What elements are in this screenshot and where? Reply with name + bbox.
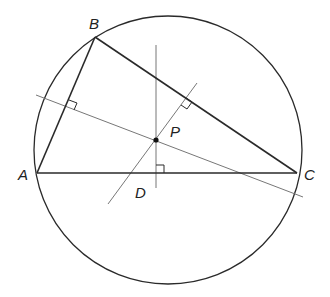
right-angle-AC — [156, 165, 164, 173]
point-p-dot — [153, 137, 158, 142]
geometry-diagram: A B C P D — [0, 0, 330, 297]
perp-bisector-AB — [36, 95, 303, 197]
right-angle-BC — [181, 98, 192, 109]
side-bc — [95, 37, 297, 173]
label-a: A — [17, 166, 28, 183]
label-b: B — [89, 15, 99, 32]
side-ab — [37, 37, 95, 173]
label-p: P — [170, 123, 180, 140]
perp-bisector-BC — [108, 83, 197, 204]
label-d: D — [135, 184, 146, 201]
label-c: C — [304, 166, 315, 183]
